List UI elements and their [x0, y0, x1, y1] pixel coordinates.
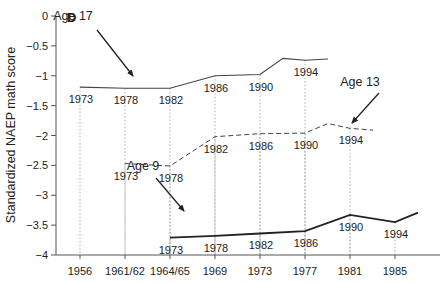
annotation-arrow-icon: [97, 30, 133, 76]
y-tick-label: 0: [42, 10, 48, 22]
point-year-label: 1994: [384, 228, 408, 240]
series-age-9: [170, 213, 418, 238]
y-axis-label: Standardized NAEP math score: [4, 47, 18, 223]
annotation-arrow-icon: [352, 93, 379, 123]
point-year-label: 1990: [294, 139, 318, 151]
x-tick-label: 1956: [68, 265, 92, 277]
x-tick-label: 1964/65: [150, 265, 190, 277]
x-tick-label: 1977: [293, 265, 317, 277]
point-labels: 1973197819821986199019941973197819821986…: [69, 66, 408, 255]
y-tick-label: −1.5: [26, 100, 48, 112]
point-year-label: 1978: [204, 242, 228, 254]
axes: 0−0.5−1−1.5−2−2.5−3−3.5−419561961/621964…: [26, 10, 440, 277]
y-tick-label: −1: [35, 70, 48, 82]
point-year-label: 1973: [159, 244, 183, 256]
point-year-label: 1986: [249, 140, 273, 152]
point-year-label: 1990: [339, 221, 363, 233]
point-year-label: 1994: [339, 134, 363, 146]
x-tick-label: 1969: [203, 265, 227, 277]
point-year-label: 1978: [114, 94, 138, 106]
annotation-label: Age 13: [340, 75, 380, 89]
y-tick-label: −2.5: [26, 159, 48, 171]
y-tick-label: −2: [35, 130, 48, 142]
point-year-label: 1982: [249, 239, 273, 251]
y-tick-label: −3.5: [26, 219, 48, 231]
y-tick-label: −4: [35, 249, 48, 261]
x-tick-label: 1973: [248, 265, 272, 277]
chart: 0−0.5−1−1.5−2−2.5−3−3.5−419561961/621964…: [0, 0, 447, 283]
point-year-label: 1990: [249, 81, 273, 93]
annotations: Age 17Age 13Age 9: [53, 9, 380, 211]
x-tick-label: 1961/62: [105, 265, 145, 277]
point-year-label: 1994: [294, 66, 318, 78]
point-year-label: 1982: [204, 143, 228, 155]
y-tick-label: −3: [35, 189, 48, 201]
point-year-label: 1982: [159, 94, 183, 106]
point-year-label: 1978: [159, 172, 183, 184]
point-year-label: 1986: [204, 82, 228, 94]
y-tick-label: −0.5: [26, 40, 48, 52]
point-year-label: 1973: [69, 93, 93, 105]
x-tick-label: 1985: [383, 265, 407, 277]
x-tick-label: 1981: [338, 265, 362, 277]
panel-label: D: [67, 10, 76, 25]
annotation-label: Age 9: [127, 159, 160, 173]
point-year-label: 1986: [294, 237, 318, 249]
